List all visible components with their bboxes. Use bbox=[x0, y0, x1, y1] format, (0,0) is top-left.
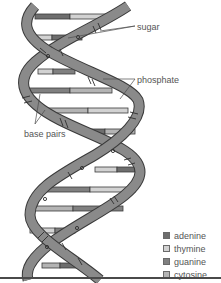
thymine-swatch bbox=[163, 245, 170, 252]
legend-label: thymine bbox=[174, 244, 206, 254]
legend-item-adenine: adenine bbox=[163, 229, 207, 242]
base-pairs-label: base pairs bbox=[24, 129, 66, 139]
adenine-swatch bbox=[163, 232, 170, 239]
baseline-divider bbox=[0, 277, 221, 279]
legend-item-thymine: thymine bbox=[163, 242, 207, 255]
legend: adenine thymine guanine cytosine bbox=[163, 229, 207, 281]
phosphate-label: phosphate bbox=[137, 75, 179, 85]
legend-label: guanine bbox=[174, 257, 206, 267]
sugar-label: sugar bbox=[137, 22, 160, 32]
guanine-swatch bbox=[163, 258, 170, 265]
legend-item-cytosine: cytosine bbox=[163, 268, 207, 281]
legend-item-guanine: guanine bbox=[163, 255, 207, 268]
backbone-strand-b bbox=[27, 6, 140, 280]
legend-label: adenine bbox=[174, 231, 206, 241]
